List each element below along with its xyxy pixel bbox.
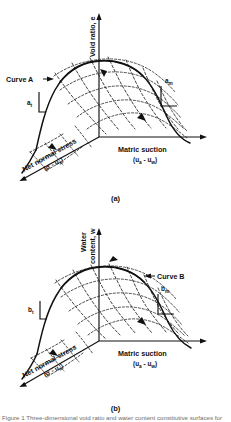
panel-caption-b: (b) — [0, 404, 231, 413]
horizontal-axis-arrowhead-b — [200, 338, 207, 343]
horizontal-axis-label-b: Matric suction — [118, 349, 167, 358]
slope-label-left-b: bt — [28, 306, 34, 315]
vertical-axis-arrowhead-b — [96, 228, 101, 235]
curve-label-a: Curve A — [6, 75, 33, 84]
horizontal-axis-formula-a: (ua - uw) — [133, 156, 157, 165]
vertical-axis-label-line1-b: Water — [79, 232, 88, 252]
horizontal-axis-label-a: Matric suction — [118, 145, 167, 154]
vertical-axis-label-line2-b: content, w — [88, 228, 97, 264]
curve-b-leader — [144, 274, 155, 279]
depth-axis-label-group-b: Net normal stress (σ - ua) — [21, 342, 83, 388]
slope-label-right-a: am — [165, 77, 173, 86]
vertical-axis-label-a: Void ratio, e — [88, 16, 97, 57]
curve-label-b: Curve B — [157, 272, 185, 281]
figure-caption: Figure 1 Three-dimensional void ratio an… — [2, 414, 229, 421]
void-ratio-surface-chart: Curve A at am Void ratio, e Matric sucti… — [0, 0, 231, 208]
curve-a-leader — [43, 77, 54, 82]
panel-water-content: Curve B bt bm Water content, w Matric su… — [0, 208, 231, 408]
panel-caption-a: (a) — [0, 194, 231, 203]
horizontal-axis-arrowhead-a — [200, 134, 207, 139]
horizontal-axis-formula-b: (ua - uw) — [133, 360, 157, 369]
vertical-axis-arrowhead-a — [96, 13, 101, 20]
mesh-cross-lines-a — [54, 59, 187, 138]
depth-axis-arrowhead-a — [19, 176, 27, 181]
slope-indicator-left-a — [39, 92, 46, 112]
slope-indicator-left-b — [40, 301, 47, 319]
slope-label-left-a: at — [27, 99, 33, 108]
slope-label-right-b: bm — [161, 285, 169, 294]
water-content-surface-chart: Curve B bt bm Water content, w Matric su… — [0, 208, 231, 408]
panel-void-ratio: Curve A at am Void ratio, e Matric sucti… — [0, 0, 231, 208]
slope-indicator-right-a — [161, 86, 177, 106]
